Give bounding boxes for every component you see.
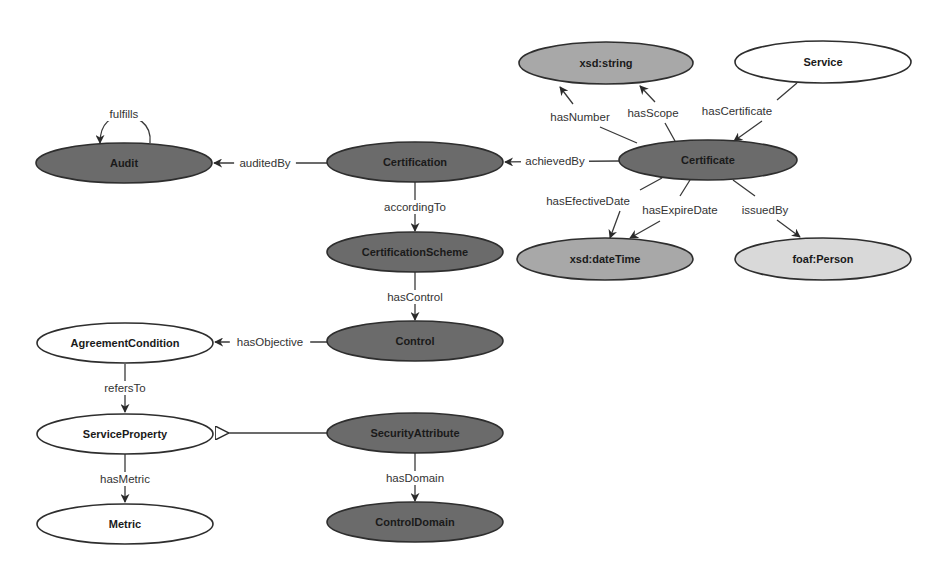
node-security-attribute[interactable]: SecurityAttribute xyxy=(327,413,503,453)
edge-label-auditedBy: auditedBy xyxy=(239,157,290,169)
node-label: SecurityAttribute xyxy=(370,427,459,439)
node-audit[interactable]: Audit xyxy=(36,143,212,183)
node-xsd-string[interactable]: xsd:string xyxy=(519,42,693,84)
node-label: foaf:Person xyxy=(792,253,853,265)
node-label: Metric xyxy=(109,518,141,530)
node-service[interactable]: Service xyxy=(735,41,911,83)
node-control[interactable]: Control xyxy=(327,321,503,361)
node-label: CertificationScheme xyxy=(362,246,468,258)
node-foaf-person[interactable]: foaf:Person xyxy=(735,238,911,280)
edge-label-hasEfectiveDate: hasEfectiveDate xyxy=(546,195,630,207)
node-label: Certificate xyxy=(681,154,735,166)
node-service-property[interactable]: ServiceProperty xyxy=(37,414,213,454)
node-control-domain[interactable]: ControlDomain xyxy=(327,502,503,542)
edge-label-hasCertificate: hasCertificate xyxy=(702,105,772,117)
edge-label-hasControl: hasControl xyxy=(387,291,443,303)
node-certification[interactable]: Certification xyxy=(327,142,503,182)
node-metric[interactable]: Metric xyxy=(37,504,213,544)
node-label: ServiceProperty xyxy=(83,428,168,440)
node-certification-scheme[interactable]: CertificationScheme xyxy=(327,232,503,272)
node-agreement-condition[interactable]: AgreementCondition xyxy=(37,323,213,363)
edge-label-fulfills: fulfills xyxy=(110,108,139,120)
edge-label-hasMetric: hasMetric xyxy=(100,473,150,485)
edge-label-accordingTo: accordingTo xyxy=(384,201,446,213)
node-certificate[interactable]: Certificate xyxy=(619,140,797,180)
node-label: Certification xyxy=(383,156,447,168)
node-xsd-datetime[interactable]: xsd:dateTime xyxy=(517,238,693,280)
edge-label-hasNumber: hasNumber xyxy=(550,111,610,123)
edge-label-hasExpireDate: hasExpireDate xyxy=(642,204,717,216)
edge-label-hasObjective: hasObjective xyxy=(237,336,303,348)
ontology-diagram: AuditCertificationCertificationSchemeCon… xyxy=(0,0,944,579)
node-label: AgreementCondition xyxy=(71,337,180,349)
node-label: xsd:dateTime xyxy=(570,253,641,265)
edge-label-hasDomain: hasDomain xyxy=(386,472,444,484)
node-label: Audit xyxy=(110,157,138,169)
node-label: ControlDomain xyxy=(375,516,455,528)
node-label: xsd:string xyxy=(579,57,632,69)
edge-label-refersTo: refersTo xyxy=(104,382,146,394)
node-label: Control xyxy=(395,335,434,347)
edge-label-issuedBy: issuedBy xyxy=(742,204,789,216)
edge-label-achievedBy: achievedBy xyxy=(525,155,585,167)
edge-label-hasScope: hasScope xyxy=(627,107,678,119)
node-label: Service xyxy=(803,56,842,68)
